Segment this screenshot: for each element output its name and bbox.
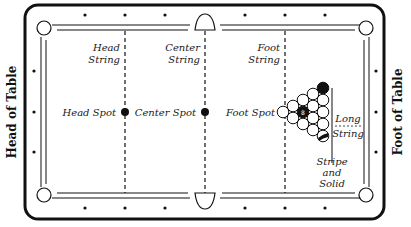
pocket-bottom-right bbox=[359, 188, 373, 202]
center-string-label-1: Center bbox=[165, 42, 201, 53]
pocket-bottom-left bbox=[37, 188, 51, 202]
head-string-label-2: String bbox=[88, 54, 120, 65]
stripe-solid-label-3: Solid bbox=[319, 178, 345, 189]
head-spot bbox=[121, 108, 129, 116]
center-string-label-2: String bbox=[168, 54, 200, 65]
foot-of-table-label: Foot of Table bbox=[391, 68, 405, 155]
foot-string-label-2: String bbox=[248, 54, 280, 65]
head-of-table-label: Head of Table bbox=[5, 65, 19, 158]
pool-table-diagram: Head of Table Foot of Table bbox=[0, 0, 411, 227]
pocket-top-right bbox=[359, 21, 373, 35]
long-string-label-2: String bbox=[332, 128, 364, 139]
head-spot-label: Head Spot bbox=[62, 107, 117, 118]
eight-ball-number: 8 bbox=[301, 109, 305, 116]
foot-spot-label: Foot Spot bbox=[225, 107, 276, 118]
center-spot-label: Center Spot bbox=[135, 107, 197, 118]
foot-string-label-1: Foot bbox=[257, 42, 281, 53]
solid-ball bbox=[317, 82, 329, 94]
center-spot bbox=[201, 108, 209, 116]
pocket-bottom-side bbox=[195, 193, 215, 209]
pocket-top-left bbox=[37, 21, 51, 35]
head-string-label-1: Head bbox=[92, 42, 120, 53]
stripe-solid-label-2: and bbox=[323, 167, 342, 178]
pocket-top-side bbox=[195, 14, 215, 30]
long-string-label-1: Long bbox=[334, 113, 361, 124]
stripe-solid-label-1: Stripe bbox=[316, 156, 347, 167]
